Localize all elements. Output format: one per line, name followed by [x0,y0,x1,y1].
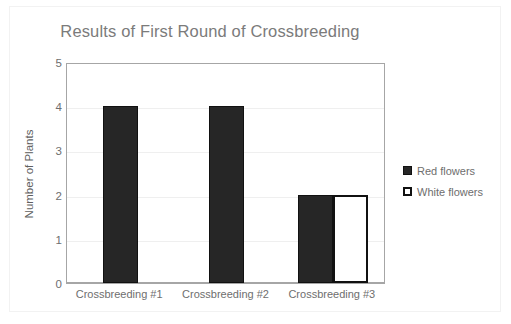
chart-title: Results of First Round of Crossbreeding [0,22,420,41]
bar-3-red[interactable] [298,195,333,283]
y-axis-tick-label: 5 [40,57,62,69]
plot-inner [67,64,384,283]
x-axis-tick-labels: Crossbreeding #1Crossbreeding #2Crossbre… [66,288,385,306]
chart-canvas: Results of First Round of Crossbreeding … [0,0,511,324]
x-axis-tick-label: Crossbreeding #3 [288,288,375,300]
x-axis-tick-label: Crossbreeding #2 [182,288,269,300]
plot-area [66,63,385,284]
y-axis-tick-label: 1 [40,234,62,246]
bar-3-white[interactable] [333,195,368,283]
y-axis-tick-labels: 012345 [38,63,62,284]
y-axis-tick-label: 4 [40,101,62,113]
outlined-white-square-icon [403,187,412,196]
y-axis-tick-label: 2 [40,190,62,202]
y-axis-title: Number of Plants [18,63,40,284]
legend-item[interactable]: White flowers [403,181,507,202]
bar-2-red[interactable] [209,106,244,283]
y-axis-tick-label: 0 [40,278,62,290]
legend-item[interactable]: Red flowers [403,160,507,181]
chart-legend: Red flowersWhite flowers [403,160,507,202]
y-axis-tick-label: 3 [40,145,62,157]
legend-item-label: Red flowers [417,165,475,177]
bar-1-red[interactable] [103,106,138,283]
x-axis-tick-label: Crossbreeding #1 [76,288,163,300]
filled-dark-square-icon [403,166,412,175]
legend-item-label: White flowers [417,186,483,198]
y-axis-title-label: Number of Plants [23,129,35,218]
